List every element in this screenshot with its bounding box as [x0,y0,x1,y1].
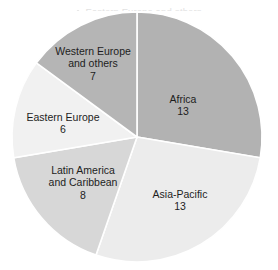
pie-slices-group [12,12,262,262]
pie-slice-africa [137,12,262,158]
pie-chart-canvas [0,0,278,270]
pie-chart-figure: Eastern Europe and others Africa 13 Asia… [0,0,278,270]
